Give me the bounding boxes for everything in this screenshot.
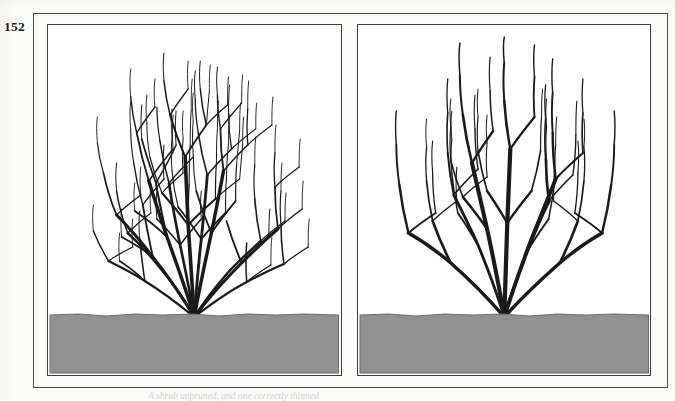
page-number: 152 — [4, 19, 25, 35]
ground-soil-band — [360, 314, 648, 373]
shrub-branches-dense — [93, 53, 310, 317]
panel-unpruned-shrub — [47, 24, 342, 376]
unpruned-shrub-illustration — [48, 25, 341, 375]
thinned-shrub-illustration — [358, 25, 651, 375]
panel-thinned-shrub — [357, 24, 652, 376]
figure-caption: A shrub unpruned, and one correctly thin… — [148, 391, 568, 401]
shrub-branches-open — [395, 37, 614, 317]
figure-area — [47, 24, 651, 376]
ground-soil-band — [50, 314, 338, 373]
